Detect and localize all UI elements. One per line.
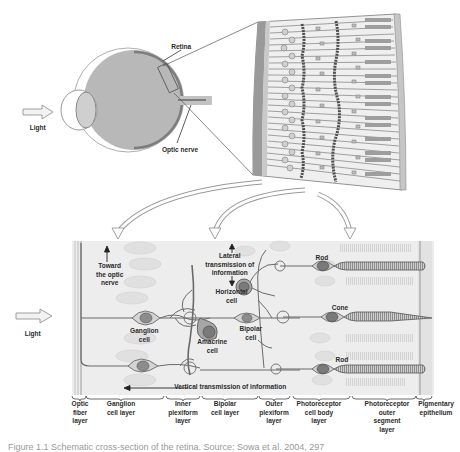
lateral-transmission-annotation: Lateral transmission of information [205,252,254,278]
amacrine-cell-label: Amacrine cell [197,338,227,355]
layer-label-optic-fiber: Optic fiber layer [70,400,90,426]
layer-label-bipolar-cell: Bipolar cell layer [205,400,246,417]
bipolar-cell-label: Bipolar cell [239,325,262,342]
eye-illustration [23,22,258,175]
down-arrow-icon [112,228,124,239]
horizontal-cell-label: Horizontal cell [216,288,248,305]
cone-label: Cone [332,304,348,313]
figure-caption: Figure 1.1 Schematic cross-section of th… [8,442,324,452]
rod-top-label: Rod [315,254,328,263]
layer-label-photoreceptor-outer-segment: Photoreceptor outer segment layer [363,400,411,434]
light-arrow-icon [23,105,53,119]
light-arrow-icon [16,309,52,323]
layer-label-photoreceptor-cell-body: Photoreceptor cell body layer [295,400,343,426]
rod-bottom-label: Rod [335,356,348,365]
optic-nerve-label: Optic nerve [162,146,198,155]
layer-label-ganglion-cell: Ganglion cell layer [101,400,142,417]
layer-label-outer-plexiform: Outer plexiform layer [256,400,292,426]
vertical-transmission-annotation: Vertical transmission of information [174,383,286,392]
layer-label-pigmentary-epithelium: Pigmentary epithelium [415,400,458,417]
layer-label-inner-plexiform: Inner plexiform layer [164,400,202,426]
retina-label: Retina [171,43,191,52]
toward-optic-nerve-annotation: Toward the optic nerve [96,262,123,288]
zoom-arrows [112,182,356,239]
ganglion-cell-label: Ganglion cell [130,327,158,344]
down-arrow-icon [344,228,356,239]
down-arrow-icon [209,228,221,239]
retina-magnified-block [253,14,406,190]
light-label-detail: Light [25,330,41,339]
light-label-eye: Light [30,124,46,133]
